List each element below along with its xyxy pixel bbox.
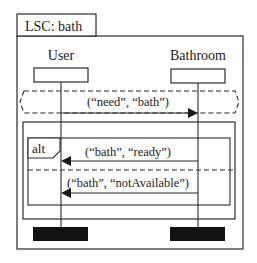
lsc-title: LSC: bath bbox=[25, 19, 82, 34]
lifeline-bathroom-head bbox=[171, 69, 225, 83]
message-bath-ready-label: (“bath”, “ready”) bbox=[85, 145, 171, 159]
arrowhead-left-icon bbox=[61, 188, 71, 198]
message-need-bath-label: (“need”, “bath”) bbox=[87, 95, 169, 109]
lifeline-user-head bbox=[34, 68, 88, 82]
arrowhead-right-icon bbox=[188, 108, 198, 118]
lsc-diagram: LSC: bath User Bathroom alt (“need”, “ba… bbox=[0, 0, 257, 263]
lifeline-bathroom-name: Bathroom bbox=[170, 48, 226, 63]
lifeline-user-name: User bbox=[48, 48, 75, 63]
message-bath-notavailable-label: (“bath”, “notAvailable”) bbox=[67, 176, 189, 190]
alt-label: alt bbox=[32, 141, 45, 156]
arrowhead-left-icon bbox=[61, 156, 71, 166]
lifeline-user-end bbox=[33, 227, 88, 241]
lifeline-bathroom-end bbox=[170, 227, 225, 241]
